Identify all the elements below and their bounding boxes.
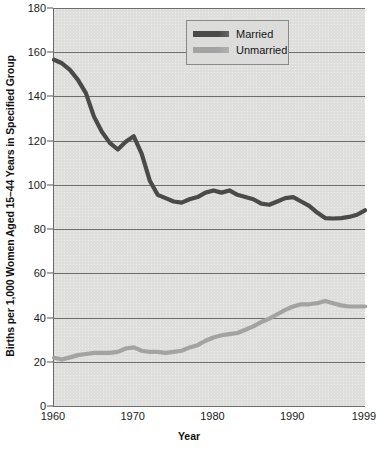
legend-label-married: Married	[236, 28, 273, 40]
x-axis-tick-label: 1999	[341, 410, 378, 422]
y-axis-tick-label: 180	[16, 2, 46, 14]
series-line-unmarried	[54, 301, 365, 360]
y-axis-tick-label: 20	[16, 356, 46, 368]
legend-item-unmarried: Unmarried	[193, 42, 282, 58]
chart-legend: Married Unmarried	[186, 20, 289, 65]
y-axis-tick-label: 100	[16, 179, 46, 191]
x-axis-tick-label: 1990	[269, 410, 315, 422]
y-axis-tick-label: 120	[16, 135, 46, 147]
y-axis-tick-label: 60	[16, 267, 46, 279]
plot-area	[53, 8, 365, 407]
y-axis-tick-label: 40	[16, 312, 46, 324]
x-axis-tick-label: 1980	[189, 410, 235, 422]
legend-swatch-married	[193, 31, 229, 37]
x-axis-tick-label: 1970	[110, 410, 156, 422]
legend-label-unmarried: Unmarried	[236, 44, 287, 56]
legend-swatch-unmarried	[193, 47, 229, 53]
y-axis-tick-label: 80	[16, 223, 46, 235]
line-chart: Births per 1,000 Women Aged 15–44 Years …	[0, 0, 378, 461]
series-lines	[54, 8, 365, 406]
y-axis-tick-label: 160	[16, 46, 46, 58]
legend-item-married: Married	[193, 26, 282, 42]
series-line-married	[54, 60, 365, 219]
x-axis-tick-label: 1960	[30, 410, 76, 422]
y-axis-tick-label: 140	[16, 90, 46, 102]
x-axis-title: Year	[0, 430, 378, 442]
y-axis-tick-labels: 020406080100120140160180	[14, 0, 46, 461]
